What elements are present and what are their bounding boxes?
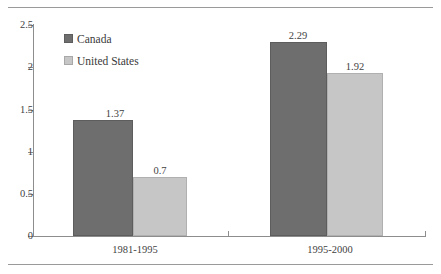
y-tick-label-2: 2: [9, 62, 33, 72]
bottom-rule: [8, 264, 433, 265]
x-category-label-1995-2000: 1995-2000: [285, 244, 375, 255]
bar-canada-1995-2000[interactable]: [270, 42, 327, 236]
legend-item-united-states[interactable]: United States: [64, 52, 139, 69]
bar-value-canada-1995-2000: 2.29: [278, 30, 318, 41]
bar-canada-1981-1995[interactable]: [73, 120, 133, 236]
bar-chart-figure: 2.5 2 1.5 1 0.5 0 1.37 0.7 2.29 1.92 198…: [0, 0, 441, 274]
bar-value-united-states-1981-1995: 0.7: [140, 165, 180, 176]
legend-label-united-states: United States: [77, 55, 139, 67]
legend-item-canada[interactable]: Canada: [64, 30, 139, 47]
bar-value-canada-1981-1995: 1.37: [95, 108, 135, 119]
x-category-label-1981-1995: 1981-1995: [90, 244, 180, 255]
y-tick-label-0.5: 0.5: [9, 189, 33, 199]
y-tick-label-1: 1: [9, 147, 33, 157]
y-tick-label-1.5: 1.5: [9, 105, 33, 115]
bar-united-states-1995-2000[interactable]: [327, 73, 383, 236]
y-tick-label-0: 0: [9, 231, 33, 241]
y-tick-label-2.5: 2.5: [9, 20, 33, 30]
x-tick-end: [425, 231, 426, 237]
bar-united-states-1981-1995[interactable]: [133, 177, 187, 236]
legend-swatch-icon-united-states: [64, 56, 73, 65]
legend-swatch-icon-canada: [64, 34, 73, 43]
legend-label-canada: Canada: [77, 33, 111, 45]
bar-value-united-states-1995-2000: 1.92: [335, 61, 375, 72]
legend: Canada United States: [64, 30, 139, 74]
x-axis-line: [33, 236, 426, 237]
top-rule: [8, 7, 433, 8]
